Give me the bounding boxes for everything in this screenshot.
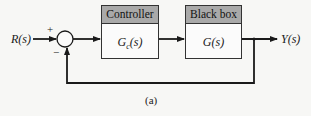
minus-sign: −	[53, 45, 59, 59]
black-box-block: Black box G(s)	[185, 5, 242, 59]
plant-transfer-function: G(s)	[186, 24, 241, 60]
plus-sign: +	[47, 22, 53, 36]
summing-junction-icon	[57, 31, 73, 47]
output-label: Y(s)	[281, 32, 300, 46]
input-label: R(s)	[11, 32, 31, 46]
controller-transfer-function: Gc(s)	[102, 24, 158, 65]
controller-tf-arg: (s)	[130, 35, 143, 49]
block-diagram: R(s) + − Controller Gc(s) Black box G(s)…	[0, 0, 311, 116]
controller-header: Controller	[102, 6, 158, 24]
caption: (a)	[145, 93, 157, 107]
black-box-header: Black box	[186, 6, 241, 24]
controller-tf-symbol: G	[118, 35, 127, 49]
controller-block: Controller Gc(s)	[101, 5, 159, 59]
